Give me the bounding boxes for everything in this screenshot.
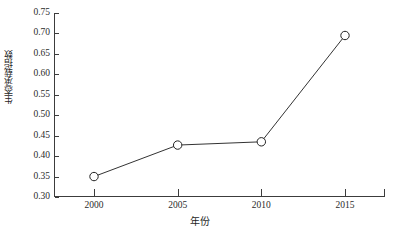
x-axis-title: 年份 bbox=[0, 213, 399, 228]
y-tick-label: 0.40 bbox=[33, 150, 50, 161]
y-tick-label: 0.30 bbox=[33, 191, 50, 202]
data-point-marker bbox=[90, 172, 98, 180]
x-tick-label: 2000 bbox=[85, 200, 104, 211]
series-line bbox=[94, 35, 345, 176]
y-tick-label: 0.65 bbox=[33, 48, 50, 59]
y-tick-label: 0.70 bbox=[33, 27, 50, 38]
plot-area: 0.300.350.400.450.500.550.600.650.700.75… bbox=[54, 13, 385, 197]
data-point-marker bbox=[173, 141, 181, 149]
y-tick-label: 0.45 bbox=[33, 130, 50, 141]
x-tick-label: 2010 bbox=[252, 200, 271, 211]
y-tick-label: 0.60 bbox=[33, 68, 50, 79]
y-tick-label: 0.75 bbox=[33, 7, 50, 18]
y-tick-label: 0.55 bbox=[33, 89, 50, 100]
x-tick-label: 2005 bbox=[168, 200, 187, 211]
y-tick-label: 0.50 bbox=[33, 109, 50, 120]
data-series bbox=[54, 13, 385, 197]
data-point-marker bbox=[257, 138, 265, 146]
y-tick-mark bbox=[55, 197, 59, 198]
chart-screenshot: 0.300.350.400.450.500.550.600.650.700.75… bbox=[0, 0, 399, 240]
x-tick-label: 2015 bbox=[336, 200, 355, 211]
y-axis-title: 生态承载指数 bbox=[2, 50, 16, 104]
y-tick-label: 0.35 bbox=[33, 171, 50, 182]
data-point-marker bbox=[341, 31, 349, 39]
